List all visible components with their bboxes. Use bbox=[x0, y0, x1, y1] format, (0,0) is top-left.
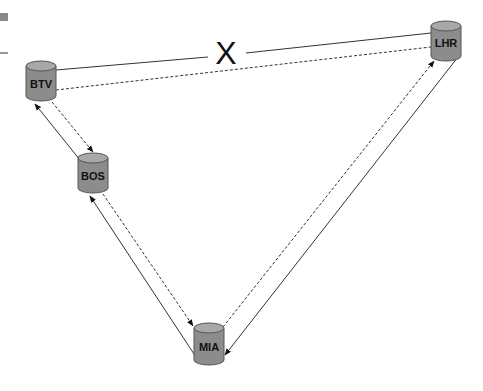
link-mia-lhr-dashed bbox=[223, 61, 434, 327]
link-btv-lhr-solid-left bbox=[56, 57, 208, 70]
link-btv-bos-dashed bbox=[52, 102, 93, 152]
node-btv[interactable]: BTV bbox=[26, 61, 56, 101]
link-bos-btv-solid bbox=[35, 104, 80, 160]
corner-block bbox=[0, 13, 8, 21]
node-bos[interactable]: BOS bbox=[78, 153, 108, 193]
node-label: LHR bbox=[435, 37, 458, 49]
link-bos-mia-dashed bbox=[103, 194, 193, 326]
cylinder-top bbox=[194, 323, 224, 333]
cylinder-top bbox=[78, 153, 108, 163]
node-label: MIA bbox=[199, 341, 219, 353]
node-label: BOS bbox=[81, 170, 105, 182]
link-cut-marker: X bbox=[215, 35, 236, 71]
node-lhr[interactable]: LHR bbox=[431, 21, 461, 61]
link-lhr-mia-solid bbox=[225, 57, 458, 355]
link-mia-bos-solid bbox=[90, 196, 196, 357]
network-diagram: X BTV BOS MIA LHR bbox=[0, 0, 483, 391]
link-btv-lhr-solid-right bbox=[246, 33, 431, 53]
cylinder-top bbox=[431, 21, 461, 31]
node-label: BTV bbox=[30, 78, 53, 90]
cylinder-top bbox=[26, 61, 56, 71]
node-mia[interactable]: MIA bbox=[194, 323, 224, 365]
link-btv-lhr-dashed bbox=[56, 47, 431, 90]
links-layer bbox=[35, 33, 458, 357]
